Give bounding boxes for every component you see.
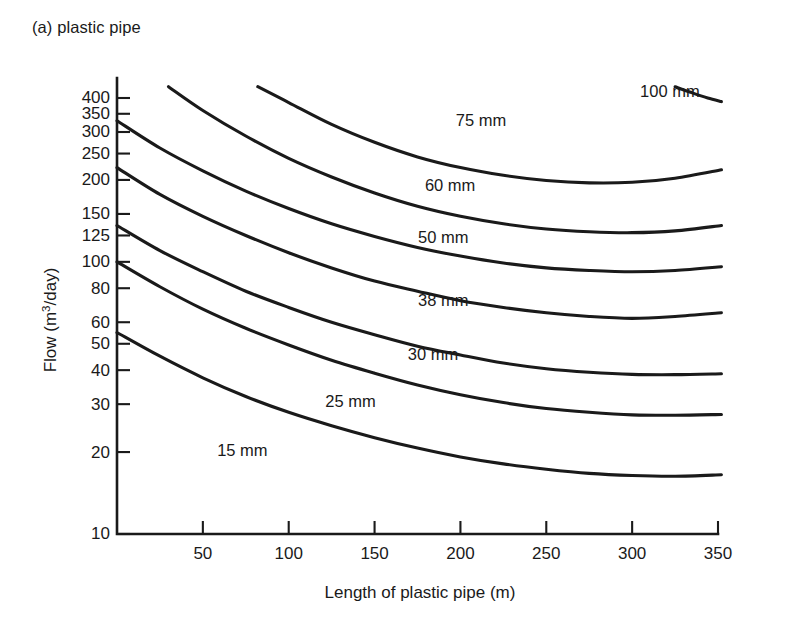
y-axis-title-base: Flow (m	[41, 312, 60, 372]
y-tick-label: 50	[91, 334, 110, 353]
x-tick-label: 350	[704, 544, 732, 563]
x-axis-ticks	[203, 521, 718, 534]
series-label-25-mm: 25 mm	[325, 392, 375, 410]
curve-60-mm	[169, 87, 722, 233]
y-tick-label: 125	[82, 226, 110, 245]
series-label-38-mm: 38 mm	[418, 291, 468, 309]
data-curves	[117, 87, 721, 477]
x-tick-label: 300	[618, 544, 646, 563]
series-label-50-mm: 50 mm	[418, 228, 468, 246]
y-tick-label: 100	[82, 252, 110, 271]
curve-25-mm	[117, 262, 721, 415]
x-axis-tick-labels: 50100150200250300350	[193, 544, 732, 563]
x-tick-label: 50	[193, 544, 212, 563]
y-tick-label: 10	[91, 524, 110, 543]
y-axis-title-tail: /day)	[41, 268, 60, 306]
y-tick-label: 250	[82, 144, 110, 163]
x-axis-title: Length of plastic pipe (m)	[325, 583, 516, 602]
y-tick-label: 30	[91, 395, 110, 414]
y-tick-label: 20	[91, 443, 110, 462]
y-tick-label: 400	[82, 88, 110, 107]
y-axis-title: Flow (m3/day)	[40, 268, 60, 373]
series-label-30-mm: 30 mm	[408, 345, 458, 363]
x-tick-label: 250	[532, 544, 560, 563]
curve-50-mm	[117, 121, 721, 272]
x-tick-label: 150	[360, 544, 388, 563]
y-tick-label: 300	[82, 122, 110, 141]
y-tick-label: 60	[91, 313, 110, 332]
y-axis-ticks	[117, 98, 130, 534]
y-tick-label: 40	[91, 361, 110, 380]
x-tick-label: 100	[275, 544, 303, 563]
y-tick-label: 200	[82, 170, 110, 189]
y-tick-label: 80	[91, 279, 110, 298]
series-label-75-mm: 75 mm	[456, 111, 506, 129]
y-tick-label: 150	[82, 204, 110, 223]
y-axis-tick-labels: 10203040506080100125150200250300350400	[82, 88, 110, 543]
series-label-15-mm: 15 mm	[217, 441, 267, 459]
figure-panel: (a) plastic pipe 10203040506080100125150…	[0, 0, 809, 621]
series-label-100-mm: 100 mm	[640, 82, 700, 100]
curve-75-mm	[258, 87, 722, 183]
chart-canvas: 10203040506080100125150200250300350400 5…	[0, 0, 809, 621]
x-tick-label: 200	[446, 544, 474, 563]
series-label-60-mm: 60 mm	[425, 176, 475, 194]
